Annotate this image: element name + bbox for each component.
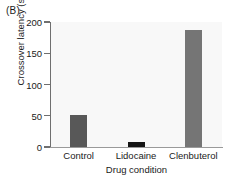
y-tick-mark [44, 53, 50, 54]
y-tick-label: 100 [6, 80, 42, 91]
y-tick-mark [44, 146, 50, 147]
y-tick-mark [44, 115, 50, 116]
y-tick-label: 0 [6, 142, 42, 153]
y-tick-label: 200 [6, 17, 42, 28]
y-tick-label: 150 [6, 48, 42, 59]
y-axis-spine [50, 22, 51, 148]
y-tick-mark [44, 21, 50, 22]
y-tick-mark [44, 84, 50, 85]
x-axis-title: Drug condition [50, 164, 223, 175]
x-axis-spine [50, 147, 223, 148]
x-tick-label-control: Control [63, 150, 94, 161]
figure-panel-b: (B) Crossover latency (s) 050100150200 C… [0, 0, 238, 182]
x-tick-label-clenbuterol: Clenbuterol [169, 150, 218, 161]
bar-clenbuterol [185, 30, 202, 147]
bar-control [70, 115, 87, 148]
x-tick-label-lidocaine: Lidocaine [116, 150, 157, 161]
y-tick-label: 50 [6, 111, 42, 122]
bar-lidocaine [128, 142, 145, 147]
